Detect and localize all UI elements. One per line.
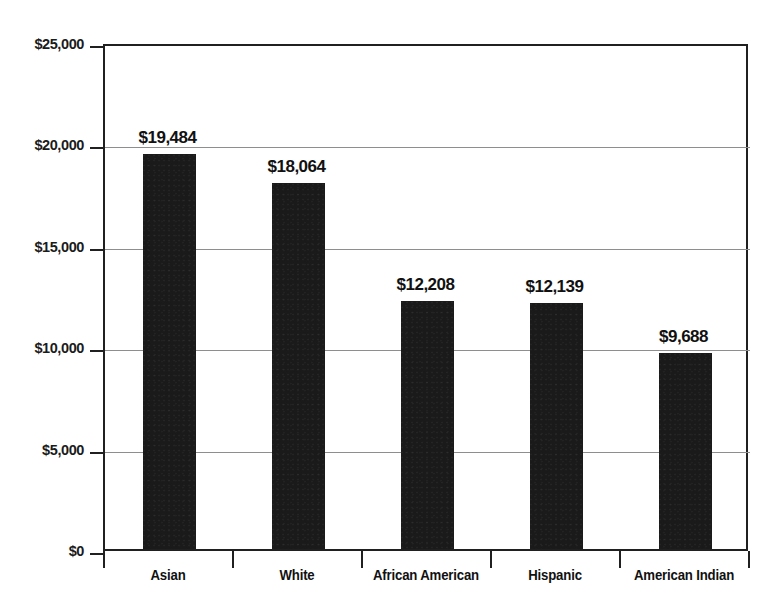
bar-chart: $0$5,000$10,000$15,000$20,000$25,000 Asi… (0, 0, 781, 614)
bar-value-label: $12,139 (526, 277, 584, 297)
y-axis-labels: $0$5,000$10,000$15,000$20,000$25,000 (0, 44, 84, 551)
bar (401, 301, 454, 549)
y-axis-tick-label: $25,000 (34, 36, 84, 52)
bar (143, 154, 196, 549)
y-axis-tick-label: $15,000 (34, 239, 84, 255)
x-axis-category-label: Asian (150, 566, 185, 583)
plot-area (103, 44, 748, 551)
bar-value-label: $9,688 (659, 327, 708, 347)
bar (272, 183, 325, 549)
x-axis-category-label: Hispanic (528, 566, 582, 583)
gridline (105, 249, 750, 250)
y-axis-tick (90, 46, 105, 48)
y-axis-tick (90, 350, 105, 352)
x-axis-tick (490, 551, 492, 568)
y-axis-tick-label: $0 (69, 543, 84, 559)
y-axis-tick-label: $10,000 (34, 340, 84, 356)
x-axis-category-label: White (279, 566, 314, 583)
x-axis-tick (103, 551, 105, 568)
x-axis-tick (232, 551, 234, 568)
bar-value-label: $12,208 (397, 275, 455, 295)
x-axis-tick (748, 551, 750, 568)
x-axis-category-label: African American (372, 566, 478, 583)
y-axis-tick (90, 147, 105, 149)
x-axis-tick (361, 551, 363, 568)
y-axis-tick (90, 249, 105, 251)
gridline (105, 147, 750, 148)
bar (659, 353, 712, 549)
x-axis-tick (619, 551, 621, 568)
bar-value-label: $19,484 (139, 128, 197, 148)
x-axis-category-label: American Indian (633, 566, 733, 583)
y-axis-tick (90, 452, 105, 454)
bar-value-label: $18,064 (268, 157, 326, 177)
bar (530, 303, 583, 549)
y-axis-tick-label: $20,000 (34, 137, 84, 153)
y-axis-tick-label: $5,000 (42, 442, 84, 458)
